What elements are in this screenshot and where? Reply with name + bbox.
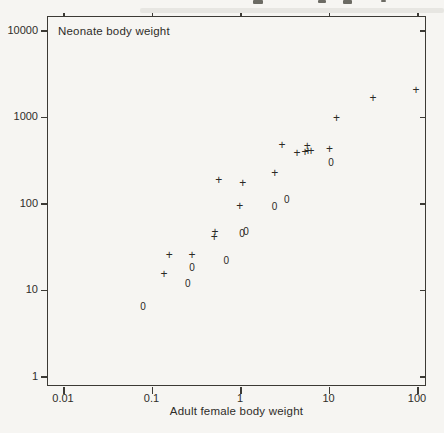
y-axis-right-tick xyxy=(420,290,426,291)
cropped-text-remnant xyxy=(343,0,352,4)
data-point-plus: + xyxy=(239,176,246,188)
x-tick-label: 100 xyxy=(395,392,439,404)
y-axis-tick xyxy=(41,203,48,204)
y-axis-tick xyxy=(41,290,48,291)
plot-area: Neonate body weight +++++++++++++++++++0… xyxy=(47,16,426,386)
scatter-plot-figure: Neonate body weight +++++++++++++++++++0… xyxy=(0,0,444,433)
x-tick-label: 0.1 xyxy=(130,392,174,404)
data-point-plus: + xyxy=(326,143,333,155)
data-point-circle: 0 xyxy=(239,229,245,239)
cropped-text-remnant xyxy=(381,0,386,2)
data-point-circle: 0 xyxy=(272,202,278,212)
data-point-plus: + xyxy=(211,230,218,242)
data-point-plus: + xyxy=(271,166,278,178)
y-tick-label: 10000 xyxy=(0,24,38,36)
data-point-plus: + xyxy=(369,91,376,103)
x-axis-top-tick xyxy=(329,13,330,17)
data-point-plus: + xyxy=(189,248,196,260)
data-point-plus: + xyxy=(413,83,420,95)
scan-artifact-streak xyxy=(140,8,444,13)
x-axis-top-tick xyxy=(63,13,64,17)
y-axis-tick xyxy=(41,30,48,31)
cropped-text-remnant xyxy=(253,0,263,4)
y-axis-right-tick xyxy=(420,30,426,31)
y-tick-label: 1000 xyxy=(0,110,38,122)
x-axis-top-tick xyxy=(417,13,418,17)
y-axis-right-tick xyxy=(420,376,426,377)
x-axis-top-tick xyxy=(152,13,153,17)
data-point-plus: + xyxy=(333,111,340,123)
x-tick-label: 1 xyxy=(218,392,262,404)
data-point-plus: + xyxy=(215,173,222,185)
y-axis-tick xyxy=(41,117,48,118)
data-point-plus: + xyxy=(294,146,301,158)
y-axis-tick xyxy=(41,376,48,377)
data-point-circle: 0 xyxy=(185,278,191,288)
data-point-circle: 0 xyxy=(328,157,334,167)
y-tick-label: 100 xyxy=(0,197,38,209)
y-axis-inner-label: Neonate body weight xyxy=(58,25,170,37)
cropped-text-remnant xyxy=(318,0,326,3)
data-point-plus: + xyxy=(166,248,173,260)
data-point-circle: 0 xyxy=(189,263,195,273)
data-point-circle: 0 xyxy=(140,301,146,311)
x-axis-top-tick xyxy=(240,13,241,17)
x-tick-label: 10 xyxy=(307,392,351,404)
data-point-circle: 0 xyxy=(284,195,290,205)
data-point-plus: + xyxy=(161,268,168,280)
y-tick-label: 10 xyxy=(0,283,38,295)
data-point-plus: + xyxy=(236,199,243,211)
data-point-plus: + xyxy=(302,145,309,157)
y-axis-right-tick xyxy=(420,117,426,118)
data-point-plus: + xyxy=(278,139,285,151)
x-tick-label: 0.01 xyxy=(41,392,85,404)
y-tick-label: 1 xyxy=(0,370,38,382)
y-axis-right-tick xyxy=(420,203,426,204)
data-point-circle: 0 xyxy=(223,255,229,265)
x-axis-title: Adult female body weight xyxy=(47,405,426,417)
